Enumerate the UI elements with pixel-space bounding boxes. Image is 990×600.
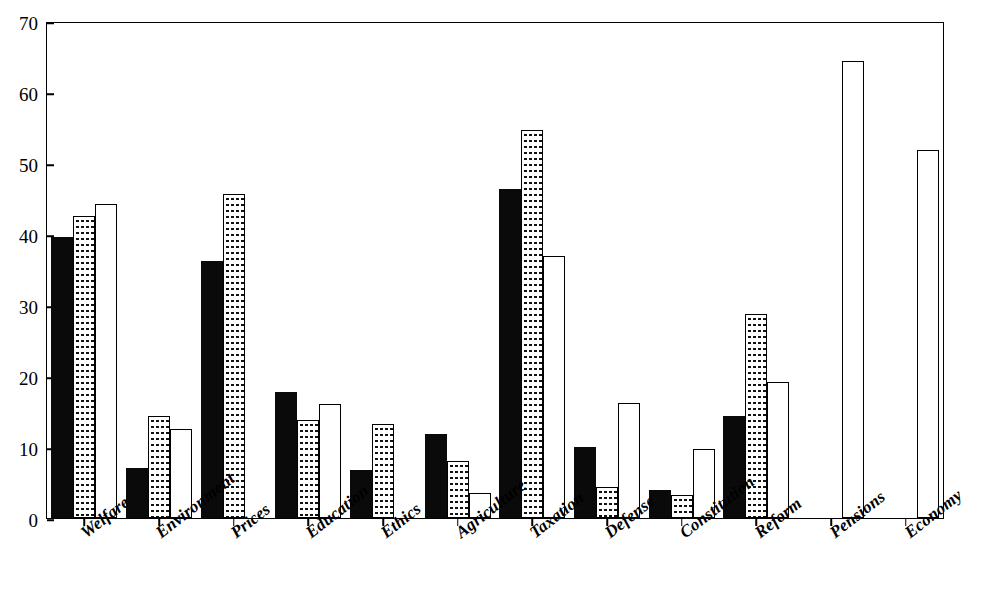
bar — [521, 130, 543, 518]
y-tick-label: 30 — [19, 298, 47, 317]
bar — [499, 189, 521, 518]
y-tick-label: 40 — [19, 227, 47, 246]
x-label-cell: Welfare — [46, 523, 121, 600]
x-label-cell: Ethics — [345, 523, 420, 600]
bar-group — [196, 23, 271, 518]
y-tick-label: 0 — [29, 511, 48, 530]
bar — [73, 216, 95, 518]
bar — [596, 487, 618, 518]
bar — [842, 61, 864, 518]
x-label-cell: Prices — [196, 523, 271, 600]
bar — [425, 434, 447, 518]
bar — [767, 382, 789, 518]
bar-group — [346, 23, 421, 518]
x-label-cell: Pensions — [794, 523, 869, 600]
y-tick-label: 70 — [19, 14, 47, 33]
bar — [51, 237, 73, 518]
bar-chart: 010203040506070 WelfareEnvironmentPrices… — [0, 0, 990, 600]
x-label-cell: Taxation — [495, 523, 570, 600]
bar — [917, 150, 939, 518]
bar-group — [495, 23, 570, 518]
x-label-cell: Education — [270, 523, 345, 600]
bar-group — [570, 23, 645, 518]
bar — [148, 416, 170, 518]
x-label-cell: Environment — [121, 523, 196, 600]
bar — [372, 424, 394, 518]
y-tick-mark — [47, 519, 54, 521]
y-tick-label: 50 — [19, 156, 47, 175]
y-tick-label: 10 — [19, 440, 47, 459]
plot-area: 010203040506070 — [46, 22, 944, 519]
bar — [671, 495, 693, 518]
x-label-cell: Agriculture — [420, 523, 495, 600]
bar — [447, 461, 469, 518]
bar-group — [122, 23, 197, 518]
bar-groups — [47, 23, 943, 518]
bar-group — [794, 23, 869, 518]
bar — [543, 256, 565, 518]
bar — [275, 392, 297, 518]
x-label-cell: Defense — [570, 523, 645, 600]
bar-group — [47, 23, 122, 518]
bar — [95, 204, 117, 518]
bar-group — [644, 23, 719, 518]
x-axis-labels: WelfareEnvironmentPricesEducationEthicsA… — [46, 523, 944, 600]
bar-group — [868, 23, 943, 518]
x-label-cell: Constitution — [645, 523, 720, 600]
bar-group — [719, 23, 794, 518]
bar-group — [271, 23, 346, 518]
y-tick-label: 20 — [19, 369, 47, 388]
x-label-cell: Economy — [869, 523, 944, 600]
x-label-cell: Reform — [719, 523, 794, 600]
bar-group — [420, 23, 495, 518]
bar — [297, 420, 319, 518]
y-tick-label: 60 — [19, 85, 47, 104]
